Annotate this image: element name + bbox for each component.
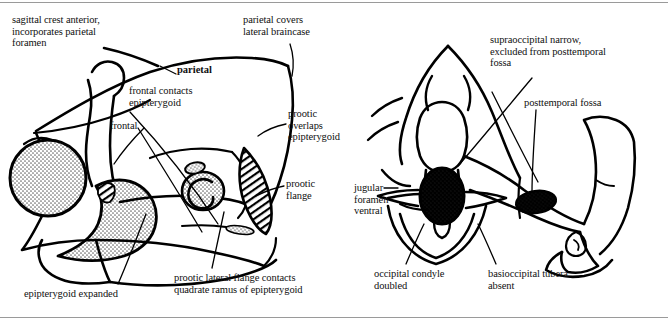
supraoccipital-left-edge — [400, 46, 448, 164]
basipterygoid-contact — [226, 224, 255, 236]
anatomical-figure: sagittal crest anterior, incorporates pa… — [0, 0, 668, 320]
occipital-condyle — [420, 168, 464, 224]
occipital-condyle-doubled-label: occipital condyle doubled — [374, 268, 444, 291]
supraoccipital-narrow-label: supraoccipital narrow, excluded from pos… — [490, 34, 606, 69]
supraoccipital-right-crescent — [464, 76, 470, 110]
prootic-lateral-flange-label: prootic lateral flange contacts quadrate… — [174, 272, 303, 295]
leader-posttemporal-fossa — [532, 110, 536, 192]
supraoccipital-column — [417, 102, 467, 172]
exoccipital-shelf-upper — [464, 156, 584, 224]
leader-basioccipital-tubera — [478, 224, 496, 264]
frontal-label: frontal — [110, 120, 137, 132]
braincase-internal-line — [150, 149, 232, 158]
posttemporal-fossa-label: posttemporal fossa — [524, 97, 601, 109]
prootic-flange-label: prootic flange — [286, 178, 315, 201]
quadrate-condyle-inner — [574, 240, 579, 250]
leader-jugular-foramen — [388, 194, 420, 198]
prootic-overlaps-label: prootic overlaps epipterygoid — [288, 108, 340, 143]
left-wing-lower — [368, 122, 398, 140]
epipterygoid-expanded-label: epipterygoid expanded — [24, 288, 118, 300]
leader-prootic-overlaps — [258, 124, 286, 136]
frontal-anterior-process — [86, 80, 92, 186]
orbit-opening — [10, 140, 86, 216]
parietal-label: parietal — [177, 64, 212, 76]
basioccipital-tubera-absent-label: basioccipital tubera absent — [488, 268, 568, 291]
posttemporal-fossa-opening — [515, 188, 558, 215]
leader-frontal — [114, 128, 144, 164]
paroccipital-internal-line — [596, 180, 614, 186]
jugular-foramen-ventral-label: jugular foramen ventral — [354, 182, 388, 217]
frontal-contacts-label: frontal contacts epipterygoid — [129, 85, 192, 108]
epipterygoid-hatched-wedge — [98, 183, 115, 203]
sagittal-crest-label: sagittal crest anterior, incorporates pa… — [12, 14, 100, 49]
leader-prootic-lateral-flange — [212, 212, 224, 268]
parietal-covers-label: parietal covers lateral braincase — [243, 14, 310, 37]
left-wing-upper — [372, 98, 402, 116]
